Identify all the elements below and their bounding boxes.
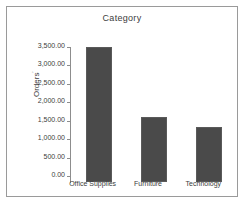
y-axis-tick-mark — [67, 47, 70, 48]
y-axis-tick-mark — [67, 158, 70, 159]
y-axis-tick-label: 500.00 — [44, 153, 65, 160]
chart-title: Category — [7, 13, 237, 23]
y-axis-tick-label: 2,500.00 — [38, 79, 65, 86]
y-axis-tick-mark — [67, 176, 70, 177]
x-axis-label: Technology — [163, 180, 243, 187]
y-axis-tick-label: 1,500.00 — [38, 116, 65, 123]
y-axis-tick-mark — [67, 65, 70, 66]
y-axis-tick-mark — [67, 84, 70, 85]
y-axis-tick-mark — [67, 139, 70, 140]
chart-frame: Category Orders′ 0.00500.001,000.001,500… — [6, 6, 238, 197]
y-axis-tick-mark — [67, 121, 70, 122]
y-axis-title-superscript: ′ — [31, 72, 37, 73]
y-axis-tick-label: 2,000.00 — [38, 97, 65, 104]
y-axis-tick-mark — [67, 102, 70, 103]
bar[interactable] — [86, 47, 112, 182]
y-axis-tick-label: 0.00 — [51, 171, 65, 178]
y-axis-tick-label: 1,000.00 — [38, 134, 65, 141]
y-axis-tick-label: 3,000.00 — [38, 60, 65, 67]
bar[interactable] — [141, 117, 167, 182]
y-axis-tick-label: 3,500.00 — [38, 42, 65, 49]
bar[interactable] — [196, 127, 222, 182]
plot-area — [71, 47, 237, 182]
